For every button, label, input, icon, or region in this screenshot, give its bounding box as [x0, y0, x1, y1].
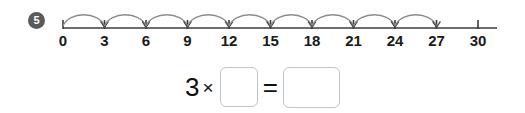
number-line-tick-label: 6 [142, 32, 150, 49]
number-line-hop-arc [312, 15, 354, 26]
number-line-hop-arc [395, 15, 437, 26]
number-line-tick-label: 18 [304, 32, 321, 49]
factor-answer-box[interactable] [220, 67, 258, 107]
equation-row: 3 × = [0, 63, 525, 111]
number-line-hop-arc [63, 15, 105, 26]
equation-multiplicand: 3 [185, 74, 199, 100]
number-line-tick-label: 12 [221, 32, 238, 49]
number-line-tick-label: 0 [59, 32, 67, 49]
number-line-hop-arc [271, 15, 313, 26]
number-line-hop-arc [229, 15, 271, 26]
number-line-tick-label: 27 [428, 32, 445, 49]
number-line-hop-arc [354, 15, 396, 26]
number-line-tick-label: 15 [262, 32, 279, 49]
number-line-tick-label: 21 [345, 32, 362, 49]
product-answer-box[interactable] [283, 67, 340, 108]
equals-sign: = [263, 74, 278, 100]
number-line-tick-label: 3 [100, 32, 108, 49]
number-line-tick-label: 30 [470, 32, 487, 49]
number-line-hop-arc [146, 15, 188, 26]
number-line-tick-label: 9 [183, 32, 191, 49]
number-line-diagram: 036912151821242730 [0, 0, 525, 63]
number-line-hop-arc [188, 15, 230, 26]
multiplication-sign: × [203, 78, 214, 97]
number-line-tick-label: 24 [387, 32, 404, 49]
worksheet-question: 5 036912151821242730 3 × = [0, 0, 525, 113]
number-line-hop-arc [105, 15, 147, 26]
